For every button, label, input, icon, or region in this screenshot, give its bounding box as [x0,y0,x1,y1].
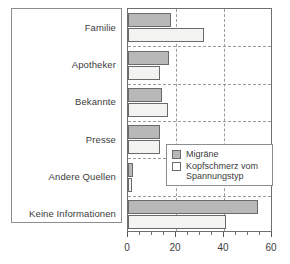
legend-label-spannungstyp: Kopfschmerz vom Spannungstyp [186,161,258,182]
x-tick-label-0: 0 [124,242,130,253]
x-tick-minor [247,232,248,235]
x-tick-minor [235,232,236,235]
x-tick-minor [259,232,260,235]
x-tick-label-60: 60 [265,242,276,253]
category-label-panel: FamilieApothekerBekanntePresseAndere Que… [11,8,122,223]
category-label-2: Apotheker [72,60,116,70]
bar [128,88,162,102]
bar [128,28,204,42]
category-label-1: Familie [85,23,116,33]
legend-swatch-icon-migraene [172,150,181,159]
legend-swatch-icon-spannungstyp [172,162,181,171]
bar [128,66,160,80]
gridline-20 [176,9,177,231]
x-tick-minor [187,232,188,235]
bar [128,140,160,154]
x-axis-ticks [127,232,273,238]
legend-label-migraene: Migräne [186,149,219,160]
plot-area [127,8,272,232]
category-label-5: Andere Quellen [49,172,116,182]
category-label-4: Presse [86,135,116,145]
chart-screenshot: FamilieApothekerBekanntePresseAndere Que… [0,0,290,264]
bar [128,163,133,177]
bar [128,103,168,117]
chart-legend: Migräne Kopfschmerz vom Spannungstyp [166,144,273,186]
bar [128,215,226,229]
legend-entry-spannungstyp: Kopfschmerz vom Spannungstyp [172,161,268,182]
group-divider [128,84,271,85]
x-tick-minor [163,232,164,235]
gridline-40 [224,9,225,231]
x-tick-label-40: 40 [217,242,228,253]
bar [128,200,258,214]
legend-entry-migraene: Migräne [172,149,268,160]
category-label-3: Bekannte [75,97,116,107]
bar [128,51,169,65]
x-tick-major [127,232,128,237]
x-tick-minor [151,232,152,235]
bar [128,178,132,192]
x-tick-minor [139,232,140,235]
bar [128,13,171,27]
x-tick-minor [211,232,212,235]
x-tick-minor [199,232,200,235]
x-tick-major [223,232,224,237]
category-label-6: Keine Informationen [29,209,116,219]
x-tick-label-20: 20 [169,242,180,253]
group-divider [128,121,271,122]
bar [128,125,160,139]
x-tick-major [175,232,176,237]
group-divider [128,46,271,47]
x-tick-major [271,232,272,237]
group-divider [128,196,271,197]
